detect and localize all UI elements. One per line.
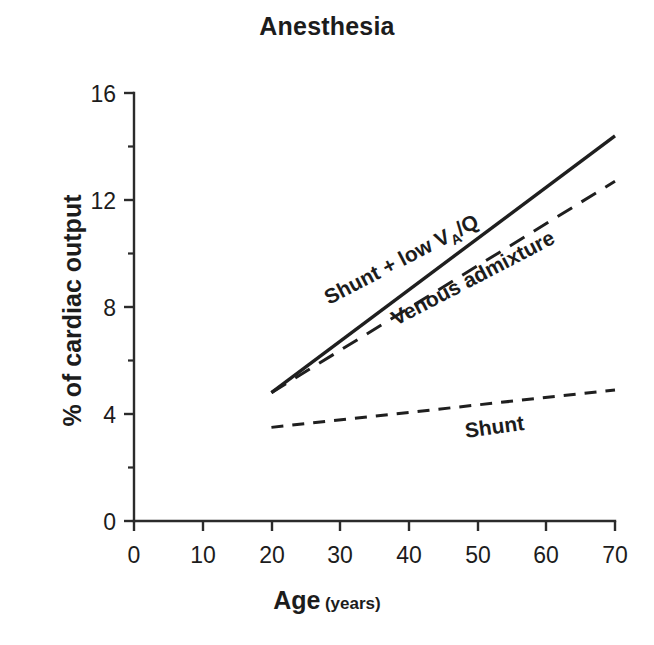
series-line-shunt-plus-low-va-q <box>271 136 615 393</box>
x-axis-major-ticks <box>134 521 615 531</box>
y-axis-major-ticks <box>124 93 134 521</box>
y-tick-label: 8 <box>103 295 116 321</box>
figure-canvas: Anesthesia % of cardiac output 16 12 8 4 <box>0 0 654 645</box>
y-tick-label: 4 <box>103 402 116 428</box>
y-axis-tick-labels: 16 12 8 4 0 <box>90 81 116 535</box>
y-tick-label: 16 <box>90 81 116 107</box>
x-tick-label: 50 <box>465 542 491 568</box>
x-tick-label: 60 <box>533 542 559 568</box>
x-tick-label: 0 <box>128 542 141 568</box>
x-axis-label-main: Age <box>273 586 320 614</box>
x-tick-label: 40 <box>396 542 422 568</box>
x-tick-label: 20 <box>259 542 285 568</box>
y-tick-label: 12 <box>90 188 116 214</box>
series-labels: Shunt + low VA/Q Venous admixture Shunt <box>320 209 558 442</box>
series-line-shunt <box>271 390 615 427</box>
x-axis-tick-labels: 0 10 20 30 40 50 60 70 <box>128 542 628 568</box>
series-label-shunt: Shunt <box>463 411 525 442</box>
plot-area: 16 12 8 4 0 0 10 20 30 40 50 60 70 <box>0 0 654 645</box>
x-axis-label-units: (years) <box>325 594 381 613</box>
x-tick-label: 30 <box>327 542 353 568</box>
x-tick-label: 70 <box>602 542 628 568</box>
x-axis-label: Age (years) <box>0 586 654 615</box>
x-tick-label: 10 <box>190 542 216 568</box>
y-tick-label: 0 <box>103 509 116 535</box>
